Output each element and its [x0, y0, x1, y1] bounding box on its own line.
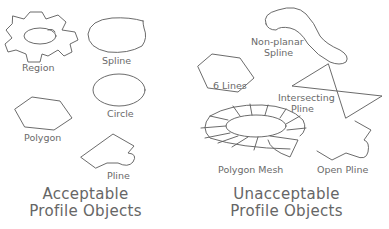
intersecting-pline-label-line2: Pline: [291, 104, 314, 114]
unacceptable-title-line2: Profile Objects: [214, 203, 359, 220]
circle-label: Circle: [107, 109, 134, 119]
non-planar-spline-label-line1: Non-planar: [251, 37, 304, 47]
acceptable-title: Acceptable Profile Objects: [18, 186, 153, 221]
six-lines-label: 6 Lines: [213, 81, 247, 91]
acceptable-title-line2: Profile Objects: [18, 203, 153, 220]
polygon-shape: [15, 97, 72, 130]
intersecting-pline-label-line1: Intersecting: [278, 93, 335, 103]
open-pline-shape: [317, 121, 371, 160]
open-pline-label: Open Pline: [317, 165, 368, 175]
region-label: Region: [22, 63, 55, 73]
polygon-label: Polygon: [24, 133, 61, 143]
pline-label: Pline: [107, 171, 130, 181]
pline-shape: [81, 134, 135, 168]
region-shape: [5, 12, 78, 62]
spline-label: Spline: [102, 56, 131, 66]
unacceptable-title: Unacceptable Profile Objects: [214, 186, 359, 221]
non-planar-spline-label-line2: Spline: [264, 48, 293, 58]
unacceptable-title-line1: Unacceptable: [214, 186, 359, 203]
spline-shape: [88, 18, 146, 53]
circle-shape: [93, 74, 145, 106]
acceptable-title-line1: Acceptable: [18, 186, 153, 203]
polygon-mesh-label: Polygon Mesh: [218, 165, 283, 175]
